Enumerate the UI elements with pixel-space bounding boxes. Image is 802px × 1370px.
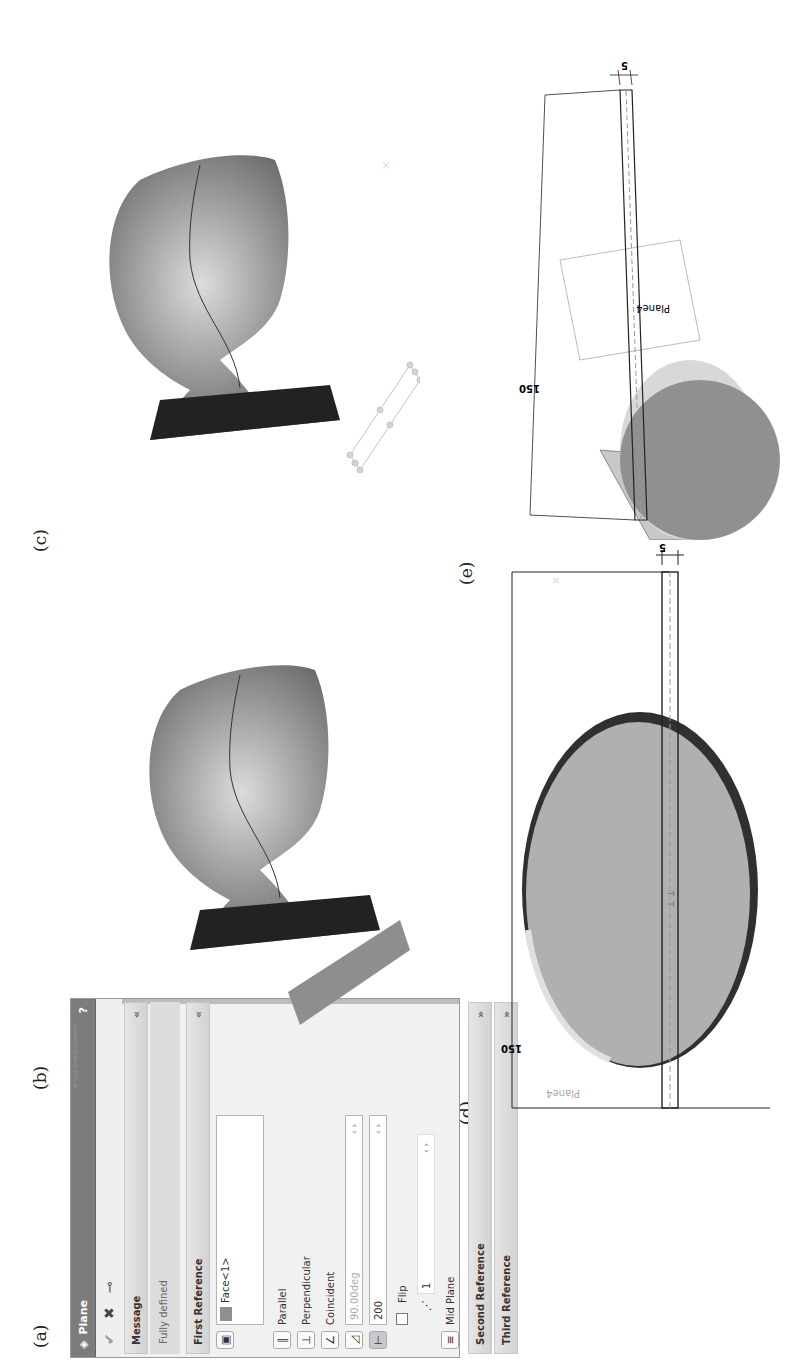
offset-spinner[interactable]: ‹ › xyxy=(373,1124,383,1134)
dimension-5-label[interactable]: 5 xyxy=(659,542,666,553)
face-color-swatch xyxy=(220,1307,232,1321)
dimension-150-label[interactable]: 150 xyxy=(501,1043,522,1054)
first-reference-selection-box[interactable]: Face<1> xyxy=(216,1115,264,1325)
dimension-5-label[interactable]: 5 xyxy=(621,60,628,71)
perpendicular-icon[interactable]: ⊥ xyxy=(297,1331,315,1349)
disc-model[interactable] xyxy=(522,712,758,1068)
panel-b-viewport xyxy=(70,570,430,1070)
plane-label: Plane4 xyxy=(546,1088,580,1099)
check-icon[interactable]: ✔ xyxy=(101,1331,117,1347)
mid-plane-row[interactable]: ≡ Mid Plane xyxy=(438,999,462,1357)
instances-spinner[interactable]: ‹ › xyxy=(421,1143,431,1153)
disc-model[interactable] xyxy=(600,360,780,540)
figure-label-c: (c) xyxy=(30,529,50,552)
plane-icon: ◈ xyxy=(77,1341,90,1349)
figure-canvas: (a) (b) (c) (d) (e) ◈ Plane ? ✔ ✖ ⊸ Mess… xyxy=(0,0,802,1370)
dimension-150-label[interactable]: 150 xyxy=(519,383,540,394)
selected-face[interactable]: Face<1> xyxy=(220,1257,231,1303)
face-selection-icon: ▣ xyxy=(216,1331,234,1349)
plane4-outline[interactable] xyxy=(560,240,700,360)
plane4-label: Plane4 xyxy=(636,303,670,314)
figure-label-b: (b) xyxy=(30,1066,50,1090)
angle-spinner[interactable]: ‹ › xyxy=(349,1124,359,1134)
angle-icon[interactable]: ◿ xyxy=(345,1331,363,1349)
pushpin-icon[interactable]: ⊸ xyxy=(101,1279,117,1295)
instances-input[interactable]: 1 ‹ › xyxy=(417,1134,435,1294)
panel-e-viewport: Plane4 150 5 xyxy=(470,0,800,540)
panel-c-viewport: ✕ xyxy=(60,20,420,540)
offset-distance-input[interactable]: 200 ‹ › xyxy=(369,1115,387,1325)
sketch-relation-marker: ⊥ ⊥ xyxy=(666,889,676,908)
sketch-plane-handles[interactable] xyxy=(347,362,420,473)
origin-marker: ✕ xyxy=(380,161,393,170)
dimension-5[interactable] xyxy=(610,70,638,85)
mid-plane-icon[interactable]: ≡ xyxy=(441,1331,459,1349)
close-icon[interactable]: ✖ xyxy=(101,1305,117,1321)
origin-marker: ✕ xyxy=(550,576,563,585)
instances-icon: ⋰ xyxy=(420,1300,433,1311)
part-icon: ⚙ xyxy=(72,1082,78,1088)
cup-model[interactable] xyxy=(149,665,380,950)
flip-checkbox[interactable] xyxy=(396,1313,408,1325)
offset-distance-icon[interactable]: ⊢ xyxy=(369,1331,387,1349)
panel-d-viewport: ✕ 150 Plane4 ⊥ ⊥ 5 xyxy=(470,540,800,1130)
angle-input[interactable]: 90.00deg ‹ › xyxy=(345,1115,363,1325)
coincident-icon[interactable]: ∠ xyxy=(321,1331,339,1349)
cup-model[interactable] xyxy=(109,155,340,440)
parallel-icon[interactable]: ∥ xyxy=(273,1331,291,1349)
figure-label-a: (a) xyxy=(30,1325,50,1348)
